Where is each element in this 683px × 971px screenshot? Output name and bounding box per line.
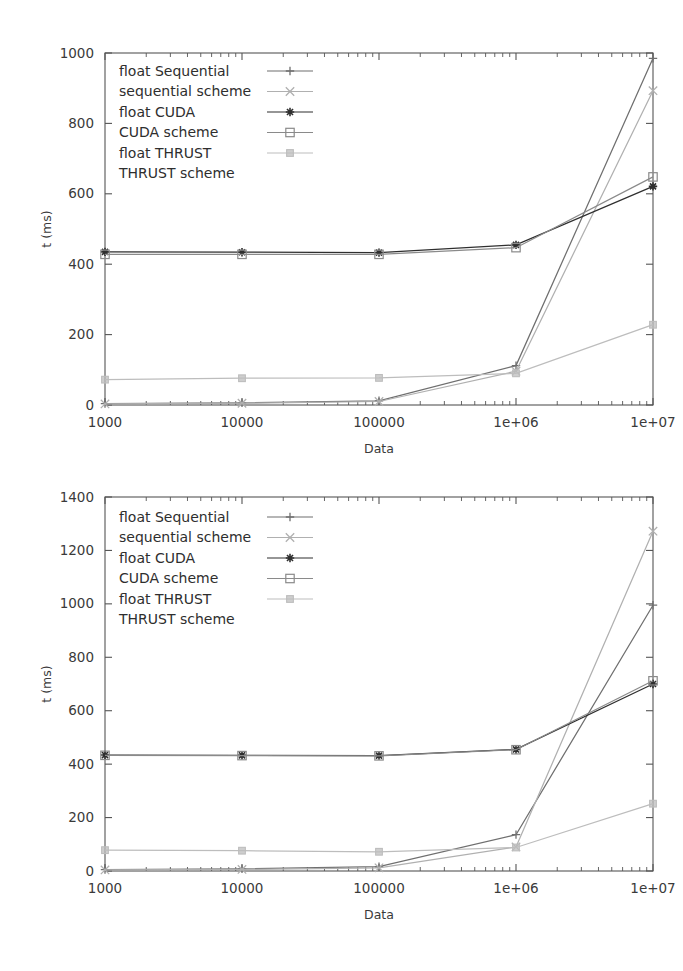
marker-plus: [286, 67, 294, 75]
y-axis: 02004006008001000: [60, 45, 653, 413]
marker-filled-square: [287, 150, 294, 157]
y-tick-label: 200: [68, 326, 94, 342]
data-series: [101, 601, 657, 874]
marker-plus: [512, 830, 520, 838]
marker-star: [286, 108, 294, 116]
marker-plus: [649, 601, 657, 609]
y-tick-label: 1000: [60, 45, 94, 61]
top-chart-canvas: 020040060080010001000100001000001e+061e+…: [0, 0, 683, 470]
legend-label: sequential scheme: [119, 529, 251, 545]
legend-label: sequential scheme: [119, 83, 251, 99]
marker-filled-square: [239, 847, 246, 854]
chart-top: 020040060080010001000100001000001e+061e+…: [0, 0, 683, 470]
marker-filled-square: [650, 800, 657, 807]
legend-label: THRUST scheme: [118, 611, 235, 627]
marker-star: [649, 182, 657, 190]
y-tick-label: 1000: [60, 595, 94, 611]
legend: float Sequentialsequential schemefloat C…: [118, 509, 313, 628]
y-tick-label: 1400: [60, 489, 94, 505]
legend-label: THRUST scheme: [118, 165, 235, 181]
marker-filled-square: [513, 844, 520, 851]
y-tick-label: 400: [68, 256, 94, 272]
legend-label: float CUDA: [119, 550, 195, 566]
marker-filled-square: [102, 847, 109, 854]
x-tick-label: 1e+06: [493, 414, 538, 430]
chart-bottom: 0200400600800100012001400100010000100000…: [0, 470, 683, 971]
y-tick-label: 600: [68, 702, 94, 718]
x-tick-label: 1000: [88, 414, 122, 430]
data-series: [101, 173, 657, 259]
legend-label: float THRUST: [119, 145, 212, 161]
x-axis-title: Data: [364, 441, 394, 456]
legend: float Sequentialsequential schemefloat C…: [118, 63, 313, 182]
y-tick-label: 0: [85, 863, 94, 879]
y-tick-label: 800: [68, 649, 94, 665]
series-line: [105, 804, 653, 852]
marker-filled-square: [513, 370, 520, 377]
marker-plus: [649, 54, 657, 62]
x-axis-title: Data: [364, 907, 394, 922]
x-tick-label: 1e+06: [493, 880, 538, 896]
marker-filled-square: [102, 376, 109, 383]
data-series: [102, 321, 657, 383]
marker-star: [286, 554, 294, 562]
marker-plus: [286, 513, 294, 521]
x-tick-label: 1e+07: [630, 414, 675, 430]
marker-filled-square: [376, 848, 383, 855]
y-tick-label: 200: [68, 809, 94, 825]
data-series: [101, 677, 657, 760]
x-tick-label: 1e+07: [630, 880, 675, 896]
x-tick-label: 100000: [353, 880, 405, 896]
series-line: [105, 325, 653, 380]
data-series: [101, 680, 657, 760]
x-tick-label: 10000: [221, 414, 264, 430]
legend-label: CUDA scheme: [119, 570, 218, 586]
marker-filled-square: [376, 375, 383, 382]
y-tick-label: 800: [68, 115, 94, 131]
marker-star: [238, 248, 246, 256]
y-axis: 0200400600800100012001400: [60, 489, 653, 879]
data-series: [102, 800, 657, 855]
x-tick-label: 1000: [88, 880, 122, 896]
legend-label: CUDA scheme: [119, 124, 218, 140]
legend-label: float Sequential: [119, 509, 230, 525]
y-axis-title: t (ms): [39, 665, 54, 702]
marker-filled-square: [287, 596, 294, 603]
y-tick-label: 1200: [60, 542, 94, 558]
marker-filled-square: [239, 375, 246, 382]
legend-label: float Sequential: [119, 63, 230, 79]
y-tick-label: 400: [68, 756, 94, 772]
marker-filled-square: [650, 321, 657, 328]
y-tick-label: 600: [68, 185, 94, 201]
series-line: [105, 681, 653, 756]
y-axis-title: t (ms): [39, 210, 54, 247]
x-tick-label: 100000: [353, 414, 405, 430]
y-tick-label: 0: [85, 397, 94, 413]
x-tick-label: 10000: [221, 880, 264, 896]
bottom-chart-canvas: 0200400600800100012001400100010000100000…: [0, 470, 683, 971]
legend-label: float CUDA: [119, 104, 195, 120]
legend-label: float THRUST: [119, 591, 212, 607]
data-series: [101, 182, 657, 257]
